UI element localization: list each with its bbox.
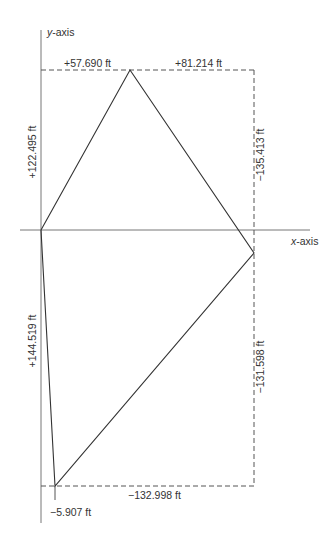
dim-left-upper: +122.495 ft [26,126,38,179]
dim-top-right: +81.214 ft [175,57,222,69]
dim-bottom: −132.998 ft [128,489,181,501]
dim-bottom-offset: −5.907 ft [50,506,91,518]
x-axis-label: x-axis [290,235,318,247]
dim-left-lower: +144.519 ft [26,315,38,368]
traverse-polygon [41,70,254,486]
dim-right-lower: −131.598 ft [254,341,266,394]
dim-top-left: +57.690 ft [64,57,111,69]
y-axis-label: y-axis [46,26,74,38]
dim-right-upper: −135.413 ft [254,129,266,182]
traverse-diagram: y-axis x-axis +57.690 ft +81.214 ft +122… [0,0,335,547]
